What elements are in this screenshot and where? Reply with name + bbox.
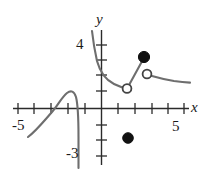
coordinate-plane-svg — [0, 0, 216, 172]
open-point-left — [123, 84, 132, 93]
y-tick-label-4: 4 — [76, 37, 84, 52]
closed-point-lower — [123, 133, 134, 144]
closed-point-upper — [138, 51, 149, 62]
y-axis-label: y — [96, 12, 103, 27]
x-tick-label-minus-5: -5 — [12, 118, 25, 133]
curve-main-rising — [129, 60, 144, 87]
y-tick-label-minus-3: -3 — [66, 146, 79, 161]
x-tick-label-5: 5 — [172, 119, 180, 134]
curve-main-right-tail — [150, 76, 190, 83]
open-point-right — [143, 70, 152, 79]
x-axis-label: x — [191, 100, 198, 115]
curve-main-left — [92, 31, 126, 88]
graph-figure: y x 4 -3 -5 5 — [0, 0, 216, 172]
